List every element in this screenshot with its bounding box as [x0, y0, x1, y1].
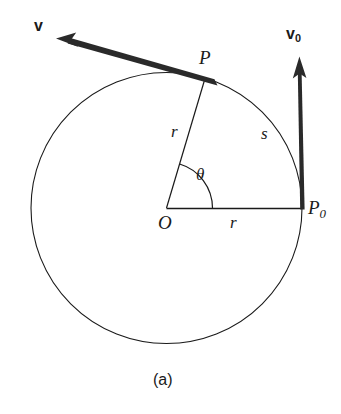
label-point-P0-base: P: [308, 197, 320, 218]
label-radius-r-upper: r: [171, 123, 178, 140]
label-point-P: P: [199, 48, 211, 67]
velocity-vector-v0: [293, 57, 307, 210]
label-vector-v0: v0: [286, 26, 301, 44]
label-point-P0: P0: [308, 198, 326, 221]
velocity-vector-v: [56, 32, 218, 85]
label-radius-r-lower: r: [230, 214, 237, 231]
physics-diagram-svg: [0, 0, 341, 414]
label-vector-v0-subscript: 0: [295, 32, 301, 44]
label-point-P0-subscript: 0: [320, 206, 326, 221]
label-point-O: O: [158, 213, 172, 232]
label-vector-v0-base: v: [286, 25, 295, 42]
radius-line-OP: [167, 79, 206, 209]
label-arc-length-s: s: [261, 125, 268, 142]
figure-caption: (a): [153, 372, 173, 388]
figure-container: v v0 P P0 O r r s θ (a): [0, 0, 341, 414]
label-vector-v: v: [34, 18, 43, 34]
label-angle-theta: θ: [196, 166, 204, 183]
